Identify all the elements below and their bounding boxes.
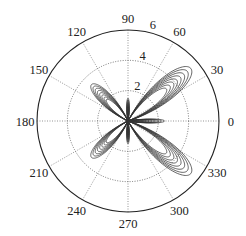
radial-tick-label: 6: [150, 18, 156, 32]
lobe-curve: [91, 84, 128, 121]
angular-tick-labels: 0306090120150180210240270300330: [16, 12, 234, 232]
angular-tick-label: 300: [170, 204, 189, 218]
angular-tick-label: 120: [67, 25, 86, 39]
angular-tick-label: 0: [228, 115, 234, 129]
angular-tick-label: 90: [122, 12, 135, 26]
radial-tick-labels: 246: [134, 18, 156, 93]
angular-tick-label: 330: [208, 166, 227, 180]
lobe-curve: [128, 70, 188, 121]
polar-chart: 0306090120150180210240270300330 246: [0, 0, 246, 236]
angular-tick-label: 210: [30, 166, 49, 180]
angular-tick-label: 240: [67, 204, 86, 218]
angular-tick-label: 180: [16, 115, 35, 129]
lobe-curve: [128, 67, 192, 121]
lobe-curve: [128, 121, 188, 172]
angular-tick-label: 270: [119, 217, 138, 231]
angular-tick-label: 60: [173, 25, 186, 39]
angular-tick-label: 150: [30, 63, 49, 77]
angular-tick-label: 30: [211, 63, 224, 77]
radial-tick-label: 4: [139, 49, 146, 63]
lobe-curve: [91, 121, 128, 158]
lobe-curve: [128, 121, 185, 169]
radial-tick-label: 2: [134, 79, 140, 93]
